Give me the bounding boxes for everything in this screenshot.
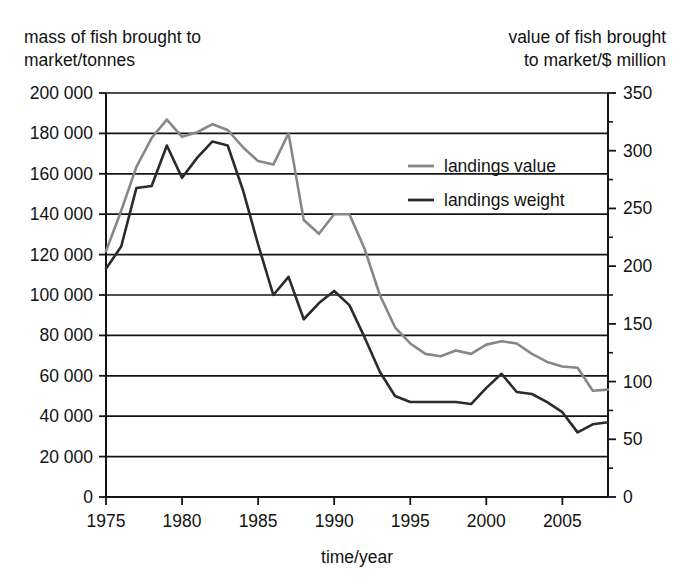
legend-label-landings-weight: landings weight: [444, 190, 565, 210]
gridlines-group: [106, 93, 608, 497]
x-axis-ticks-group: 1975198019851990199520002005: [87, 497, 582, 531]
x-axis-tick-label: 1985: [239, 511, 278, 531]
left-axis-tick-label: 180 000: [30, 123, 94, 143]
right-axis-tick-label: 200: [623, 256, 652, 276]
left-axis-tick-label: 60 000: [39, 366, 93, 386]
axis-titles-group: time/year: [321, 547, 393, 567]
right-axis-tick-label: 50: [623, 429, 643, 449]
right-axis-tick-label: 350: [623, 83, 652, 103]
left-axis-ticks-group: 020 00040 00060 00080 000100 000120 0001…: [30, 83, 106, 507]
right-axis-tick-label: 0: [623, 487, 633, 507]
left-axis-tick-label: 200 000: [30, 83, 94, 103]
chart-figure: mass of fish brought to market/tonnes va…: [0, 0, 682, 587]
left-axis-header: mass of fish brought to market/tonnes: [24, 26, 201, 72]
right-axis-tick-label: 150: [623, 314, 652, 334]
right-axis-ticks-group: 050100150200250300350: [608, 83, 652, 507]
series-line-landings-weight: [106, 141, 608, 432]
x-axis-tick-label: 1975: [87, 511, 126, 531]
left-axis-tick-label: 140 000: [30, 204, 94, 224]
x-axis-title: time/year: [321, 547, 393, 567]
left-axis-tick-label: 160 000: [30, 164, 94, 184]
left-axis-tick-label: 40 000: [39, 406, 93, 426]
left-axis-tick-label: 100 000: [30, 285, 94, 305]
right-axis-header: value of fish brought to market/$ millio…: [508, 26, 666, 72]
chart-legend: landings valuelandings weight: [408, 156, 565, 210]
x-axis-tick-label: 1990: [315, 511, 354, 531]
left-axis-tick-label: 120 000: [30, 245, 94, 265]
legend-label-landings-value: landings value: [444, 156, 556, 176]
x-axis-tick-label: 1980: [163, 511, 202, 531]
x-axis-tick-label: 2000: [467, 511, 506, 531]
right-axis-tick-label: 100: [623, 372, 652, 392]
left-axis-tick-label: 80 000: [39, 325, 93, 345]
left-axis-tick-label: 20 000: [39, 447, 93, 467]
line-chart-svg: 020 00040 00060 00080 000100 000120 0001…: [0, 0, 682, 587]
x-axis-tick-label: 2005: [543, 511, 582, 531]
right-axis-tick-label: 250: [623, 198, 652, 218]
right-axis-tick-label: 300: [623, 141, 652, 161]
x-axis-tick-label: 1995: [391, 511, 430, 531]
left-axis-tick-label: 0: [83, 487, 93, 507]
